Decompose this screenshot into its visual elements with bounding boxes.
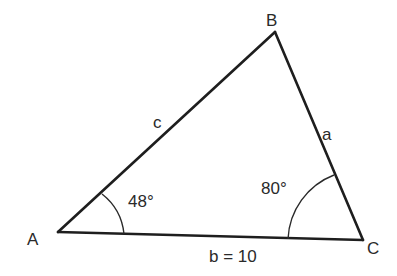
- triangle-diagram: A B C c a b = 10 48° 80°: [0, 0, 397, 276]
- angle-arc-a: [102, 194, 124, 234]
- angle-arc-c: [288, 175, 334, 239]
- vertex-label-c: C: [367, 239, 379, 258]
- vertex-label-a: A: [27, 230, 39, 249]
- angle-label-a: 48°: [128, 192, 154, 211]
- side-label-a: a: [322, 125, 332, 144]
- side-c: [58, 32, 275, 232]
- side-a: [275, 32, 363, 240]
- side-label-c: c: [153, 113, 162, 132]
- angle-label-c: 80°: [261, 179, 287, 198]
- vertex-label-b: B: [266, 11, 277, 30]
- side-label-b: b = 10: [209, 247, 257, 266]
- side-b: [58, 232, 363, 240]
